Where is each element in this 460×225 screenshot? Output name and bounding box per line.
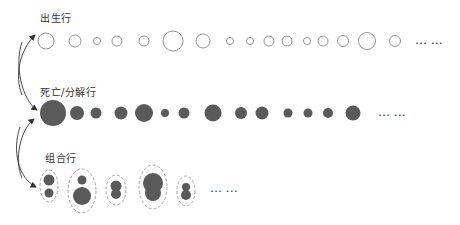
- birth-circle: [94, 38, 101, 45]
- birth-circle: [38, 33, 54, 49]
- combine-circle: [181, 190, 191, 200]
- combine-row-groups: [40, 165, 195, 213]
- birth-circle: [359, 33, 376, 50]
- death-circle: [346, 106, 361, 121]
- birth-circle: [196, 34, 210, 48]
- birth-circle: [318, 36, 328, 46]
- arrow-combine-from-death: [17, 127, 36, 187]
- birth-circle: [304, 38, 311, 45]
- birth-row-circles: [38, 31, 401, 51]
- combine-circle: [73, 187, 91, 205]
- birth-circle: [390, 36, 401, 47]
- death-circle: [91, 108, 102, 119]
- death-circle: [135, 104, 153, 122]
- death-row-circles: [40, 100, 361, 126]
- arrow-birth-to-death: [19, 42, 37, 110]
- birth-circle: [163, 31, 183, 51]
- death-circle: [70, 106, 84, 120]
- death-circle: [40, 100, 66, 126]
- death-circle: [235, 107, 247, 119]
- death-circle: [284, 109, 293, 118]
- combine-circle: [45, 189, 54, 198]
- birth-circle: [227, 38, 234, 45]
- death-circle: [115, 107, 128, 120]
- combine-circle: [145, 185, 161, 201]
- death-row-ellipsis: … …: [378, 105, 406, 119]
- death-circle: [205, 105, 222, 122]
- diagram-canvas: … … … … … …: [0, 0, 460, 225]
- death-circle: [323, 108, 333, 118]
- birth-circle: [338, 36, 349, 47]
- death-circle: [304, 109, 313, 118]
- combine-circle: [44, 175, 55, 186]
- birth-circle: [264, 36, 274, 46]
- birth-circle: [69, 35, 81, 47]
- death-circle: [256, 107, 269, 120]
- birth-row-ellipsis: … …: [415, 33, 443, 47]
- birth-circle: [282, 36, 292, 46]
- combine-circle: [78, 176, 87, 185]
- death-circle: [179, 108, 190, 119]
- combine-circle: [111, 189, 121, 199]
- birth-circle: [247, 38, 254, 45]
- combine-circle: [182, 183, 190, 191]
- birth-circle: [112, 36, 122, 46]
- death-circle: [161, 109, 169, 117]
- combine-row-ellipsis: … …: [210, 181, 238, 195]
- birth-circle: [139, 36, 149, 46]
